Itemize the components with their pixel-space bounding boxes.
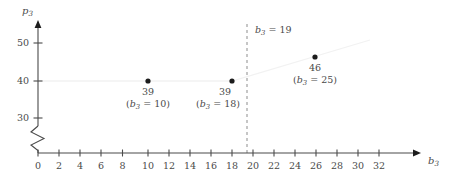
x-tick-label-20: 20 — [247, 161, 259, 171]
data-point-b3-10[interactable] — [145, 78, 150, 83]
y-axis-break-icon — [31, 126, 44, 153]
data-point-note-b3-10: (b3 = 10) — [126, 99, 170, 111]
x-tick-label-16: 16 — [205, 161, 217, 171]
x-tick-label-8: 8 — [119, 161, 125, 171]
x-tick-label-10: 10 — [142, 161, 154, 171]
y-tick-label-30: 30 — [0, 113, 29, 123]
threshold-annotation-label: b3 = 19 — [255, 25, 292, 37]
data-point-b3-18[interactable] — [229, 78, 234, 83]
x-tick-label-12: 12 — [163, 161, 175, 171]
y-tick-label-40: 40 — [0, 76, 29, 86]
x-tick-label-24: 24 — [289, 161, 301, 171]
x-tick-label-32: 32 — [373, 161, 385, 171]
data-point-value-b3-10: 39 — [142, 87, 154, 97]
data-point-b3-25[interactable] — [312, 54, 317, 59]
data-point-value-b3-18: 39 — [219, 87, 231, 97]
data-point-value-b3-25: 46 — [309, 63, 321, 73]
x-tick-label-28: 28 — [331, 161, 343, 171]
x-tick-label-18: 18 — [226, 161, 238, 171]
y-tick-label-50: 50 — [0, 38, 29, 48]
x-tick-label-4: 4 — [77, 161, 83, 171]
y-axis-label: p3 — [22, 6, 33, 17]
data-point-note-b3-18: (b3 = 18) — [196, 99, 240, 111]
y-axis-arrow-icon — [35, 20, 42, 28]
x-tick-label-6: 6 — [98, 161, 104, 171]
x-tick-label-30: 30 — [352, 161, 364, 171]
x-axis-label: b3 — [428, 156, 439, 167]
chart-container: p3 b3 50 40 30 0 2 4 6 8 10 12 14 16 18 … — [0, 0, 454, 177]
x-tick-label-26: 26 — [310, 161, 322, 171]
x-tick-label-0: 0 — [35, 161, 41, 171]
x-tick-label-2: 2 — [56, 161, 62, 171]
x-axis-arrow-icon — [413, 150, 421, 157]
x-tick-label-14: 14 — [184, 161, 196, 171]
data-point-note-b3-25: (b3 = 25) — [293, 75, 337, 87]
x-tick-label-22: 22 — [268, 161, 280, 171]
